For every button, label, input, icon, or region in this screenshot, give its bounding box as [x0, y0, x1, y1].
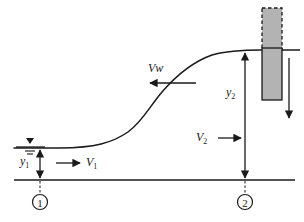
section-one-marker: 1 — [33, 195, 48, 210]
label-velocity-upstream: V1 — [86, 156, 97, 171]
diagram-canvas: 1 2 — [0, 0, 304, 222]
label-velocity-downstream-sub: 2 — [203, 137, 207, 146]
label-depth-upstream-sub: 1 — [25, 161, 29, 170]
label-depth-downstream: y2 — [226, 86, 235, 101]
surge-wave-diagram: 1 2 Vw y1 V1 y2 V2 — [0, 0, 304, 222]
label-velocity-upstream-sub: 1 — [93, 162, 97, 171]
section-two-marker: 2 — [238, 195, 253, 210]
label-depth-downstream-sub: 2 — [231, 92, 235, 101]
gate-solid-lower — [262, 48, 282, 100]
svg-text:1: 1 — [37, 197, 43, 209]
label-wave-speed: Vw — [148, 62, 163, 74]
water-surface-profile — [14, 50, 262, 148]
gate-dashed-upper — [262, 8, 282, 50]
svg-text:2: 2 — [242, 197, 248, 209]
label-depth-upstream: y1 — [20, 155, 29, 170]
label-velocity-downstream: V2 — [196, 131, 207, 146]
